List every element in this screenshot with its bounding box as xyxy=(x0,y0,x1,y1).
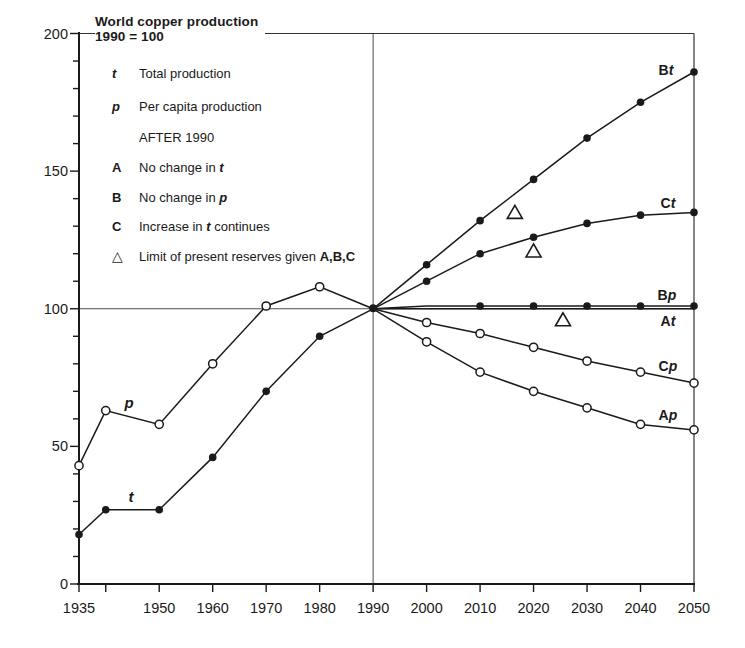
legend-text: Increase in xyxy=(139,219,206,234)
legend-item-limit: △Limit of present reserves given A,B,C xyxy=(112,248,355,265)
x-tick-label-2040: 2040 xyxy=(624,600,656,616)
point-p-1935 xyxy=(75,462,83,470)
y-tick-label-100: 100 xyxy=(44,301,68,317)
point-Bp-2040 xyxy=(637,302,645,310)
y-tick-label-0: 0 xyxy=(60,576,68,592)
y-tick-label-200: 200 xyxy=(44,26,68,42)
x-tick-label-2020: 2020 xyxy=(517,600,549,616)
point-Ap-2030 xyxy=(583,404,591,412)
point-Cp-2050 xyxy=(690,379,698,387)
point-Ap-2000 xyxy=(423,338,431,346)
point-t-1960 xyxy=(209,454,217,462)
point-p-1970 xyxy=(262,302,270,310)
legend-text: t xyxy=(219,160,223,175)
line-label-Bp: Bp xyxy=(657,287,676,303)
x-tick-label-2030: 2030 xyxy=(571,600,603,616)
point-Ct-2030 xyxy=(583,220,591,228)
legend-symbol: C xyxy=(112,219,139,235)
legend-text: No change in xyxy=(139,160,219,175)
x-tick-label-1935: 1935 xyxy=(63,600,95,616)
legend-item-t: tTotal production xyxy=(112,66,231,82)
chart-subtitle: 1990 = 100 xyxy=(95,29,258,44)
y-tick-label-50: 50 xyxy=(52,438,68,454)
legend-item-C: CIncrease in t continues xyxy=(112,219,270,235)
point-t-1940 xyxy=(102,506,110,514)
x-tick-label-1970: 1970 xyxy=(250,600,282,616)
point-Bt-2040 xyxy=(637,99,645,107)
reserve-limit-triangle-3 xyxy=(555,313,570,326)
legend-text: p xyxy=(219,190,227,205)
point-Cp-2010 xyxy=(476,329,484,337)
triangle-icon: △ xyxy=(112,248,139,264)
point-Ct-2020 xyxy=(530,233,538,241)
reserve-limit-triangle-1 xyxy=(507,205,522,218)
point-Cp-2000 xyxy=(423,318,431,326)
point-Bp-2010 xyxy=(476,302,484,310)
legend-text: No change in xyxy=(139,190,219,205)
line-label-letter: B xyxy=(658,62,668,78)
legend-item-p: pPer capita production xyxy=(112,99,262,115)
line-label-Cp: Cp xyxy=(658,358,677,374)
point-Bp-2050 xyxy=(690,302,698,310)
x-tick-label-2000: 2000 xyxy=(410,600,442,616)
line-label-Ct: Ct xyxy=(660,195,675,211)
x-tick-label-1990: 1990 xyxy=(357,600,389,616)
line-label-letter: B xyxy=(657,287,667,303)
chart-canvas: 0501001502001935195019601970198019902000… xyxy=(0,0,745,648)
series-Bt-line xyxy=(373,72,694,309)
point-t-1980 xyxy=(316,332,324,340)
legend-text: Per capita production xyxy=(139,99,262,114)
legend-text: continues xyxy=(211,219,270,234)
point-t-1970 xyxy=(262,388,270,396)
line-label-variable: t xyxy=(671,195,676,211)
chart-title-block: World copper production 1990 = 100 xyxy=(95,13,265,45)
line-label-letter: A xyxy=(660,313,670,329)
point-Ap-2040 xyxy=(636,420,644,428)
line-label-Ap: Ap xyxy=(658,407,677,423)
legend-item-A: ANo change in t xyxy=(112,160,224,176)
series-Ap-line xyxy=(373,309,694,430)
x-tick-label-2050: 2050 xyxy=(678,600,710,616)
point-Bt-2010 xyxy=(476,217,484,225)
line-label-letter: A xyxy=(658,407,668,423)
point-p-1950 xyxy=(155,420,163,428)
point-t-1935 xyxy=(75,531,83,539)
point-Ap-2050 xyxy=(690,426,698,434)
x-tick-label-1950: 1950 xyxy=(143,600,175,616)
chart-title: World copper production xyxy=(95,14,258,29)
line-label-letter: C xyxy=(660,195,670,211)
point-Ct-2000 xyxy=(423,277,431,285)
point-Bp-2030 xyxy=(583,302,591,310)
curve-label-p: p xyxy=(124,394,133,411)
legend-symbol: A xyxy=(112,160,139,176)
point-Bt-2000 xyxy=(423,261,431,269)
y-tick-label-150: 150 xyxy=(44,163,68,179)
point-Bp-2020 xyxy=(530,302,538,310)
line-label-variable: t xyxy=(671,313,676,329)
point-p-1980 xyxy=(316,283,324,291)
point-Cp-2020 xyxy=(529,343,537,351)
legend-text: A,B,C xyxy=(320,249,355,264)
point-Ct-2050 xyxy=(690,209,698,217)
legend-text: AFTER 1990 xyxy=(139,130,214,145)
series-t-line xyxy=(79,309,373,535)
x-tick-label-1960: 1960 xyxy=(197,600,229,616)
line-label-At: At xyxy=(660,313,675,329)
x-tick-label-2010: 2010 xyxy=(464,600,496,616)
point-p-1960 xyxy=(209,360,217,368)
line-label-variable: t xyxy=(669,62,674,78)
point-Cp-2030 xyxy=(583,357,591,365)
legend-text: Total production xyxy=(139,66,231,81)
line-label-Bt: Bt xyxy=(658,62,673,78)
point-Bt-2050 xyxy=(690,68,698,76)
point-Bt-2030 xyxy=(583,134,591,142)
point-Ct-2010 xyxy=(476,250,484,258)
reserve-limit-triangle-2 xyxy=(526,244,541,257)
x-tick-label-1980: 1980 xyxy=(304,600,336,616)
point-Ct-2040 xyxy=(637,211,645,219)
series-Ct-line xyxy=(373,212,694,308)
legend-symbol: t xyxy=(112,66,139,82)
line-label-variable: p xyxy=(669,358,678,374)
point-Bt-2020 xyxy=(530,176,538,184)
point-Cp-2040 xyxy=(636,368,644,376)
